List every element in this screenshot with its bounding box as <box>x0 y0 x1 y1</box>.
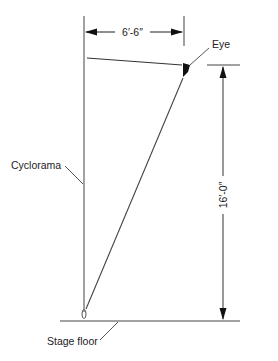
cyclorama-leader <box>65 166 83 184</box>
vertical-dimension: 16′-0″ <box>217 66 229 320</box>
vertical-dimension-label: 16′-0″ <box>217 181 229 208</box>
arrow-right-icon <box>171 29 183 36</box>
arrow-up-icon <box>220 66 227 78</box>
horizontal-dimension: 6′-6″ <box>85 26 183 38</box>
cyclorama-label: Cyclorama <box>11 159 61 171</box>
sight-line-diagonal <box>86 78 183 309</box>
eye-label: Eye <box>212 38 230 50</box>
stage-floor-label: Stage floor <box>47 335 98 347</box>
stage-floor-leader <box>100 322 118 340</box>
eye-leader <box>190 48 209 65</box>
sightline-diagram: 6′-6″ Eye 16′-0″ Cyclorama Stage floor <box>0 0 278 361</box>
sight-line-horizontal <box>87 58 182 65</box>
eye-icon <box>183 63 190 77</box>
arrow-down-icon <box>220 308 227 320</box>
arrow-left-icon <box>85 29 97 36</box>
horizontal-dimension-label: 6′-6″ <box>122 26 143 38</box>
